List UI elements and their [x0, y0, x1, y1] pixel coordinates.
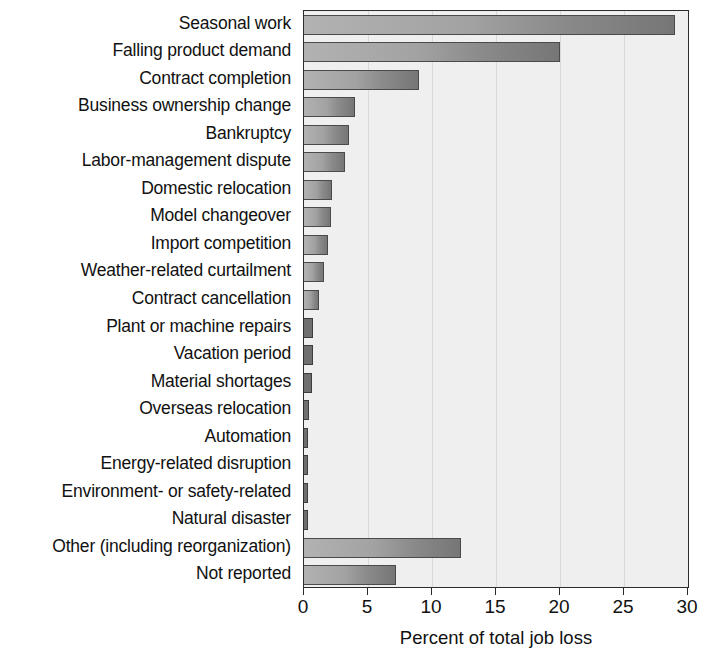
bar-fill [304, 373, 312, 393]
x-axis-tick [687, 588, 688, 595]
category-label: Domestic relocation [0, 180, 291, 198]
x-axis-tick [431, 588, 432, 595]
x-axis-tick [623, 588, 624, 595]
bar-fill [304, 510, 308, 530]
bar-fill [304, 152, 345, 172]
x-axis-tick-label: 5 [362, 597, 373, 616]
bar[interactable] [304, 483, 308, 503]
bar[interactable] [304, 125, 349, 145]
category-label: Not reported [0, 565, 291, 583]
x-axis-tick-label: 0 [298, 597, 309, 616]
category-label: Natural disaster [0, 510, 291, 528]
bar-fill [304, 42, 560, 62]
bar-fill [304, 235, 328, 255]
gridline [432, 11, 433, 587]
x-axis-tick [559, 588, 560, 595]
bar[interactable] [304, 345, 313, 365]
category-label: Overseas relocation [0, 400, 291, 418]
category-label: Contract completion [0, 70, 291, 88]
category-label: Energy-related disruption [0, 455, 291, 473]
bar-fill [304, 483, 308, 503]
x-axis: 051015202530 [303, 588, 689, 589]
bar[interactable] [304, 455, 308, 475]
bar-fill [304, 290, 319, 310]
category-label: Seasonal work [0, 15, 291, 33]
bar-fill [304, 15, 675, 35]
category-label: Environment- or safety-related [0, 483, 291, 501]
category-label: Import competition [0, 235, 291, 253]
bar-fill [304, 262, 324, 282]
x-axis-tick [303, 588, 304, 595]
gridline [368, 11, 369, 587]
bar-fill [304, 455, 308, 475]
bar-fill [304, 180, 332, 200]
bar-chart: Seasonal workFalling product demandContr… [0, 0, 706, 665]
bar-fill [304, 400, 309, 420]
bar[interactable] [304, 235, 328, 255]
x-axis-tick-label: 30 [676, 597, 697, 616]
category-label: Contract cancellation [0, 290, 291, 308]
bar-fill [304, 345, 313, 365]
bar[interactable] [304, 538, 461, 558]
category-label: Falling product demand [0, 42, 291, 60]
category-label: Business ownership change [0, 97, 291, 115]
category-label: Bankruptcy [0, 125, 291, 143]
bar[interactable] [304, 565, 396, 585]
x-axis-tick-label: 10 [420, 597, 441, 616]
x-axis-tick [495, 588, 496, 595]
category-label: Labor-management dispute [0, 152, 291, 170]
category-label: Vacation period [0, 345, 291, 363]
category-label: Material shortages [0, 373, 291, 391]
plot-area [303, 10, 689, 588]
x-axis-tick-label: 15 [484, 597, 505, 616]
bar-fill [304, 565, 396, 585]
bar[interactable] [304, 510, 308, 530]
bar[interactable] [304, 15, 675, 35]
x-axis-tick [367, 588, 368, 595]
bar-fill [304, 538, 461, 558]
bar-fill [304, 318, 313, 338]
gridline [496, 11, 497, 587]
category-label: Model changeover [0, 207, 291, 225]
bar[interactable] [304, 152, 345, 172]
bar-fill [304, 428, 308, 448]
category-axis-labels: Seasonal workFalling product demandContr… [0, 10, 297, 588]
x-axis-tick-label: 25 [612, 597, 633, 616]
bar[interactable] [304, 180, 332, 200]
category-label: Other (including reorganization) [0, 538, 291, 556]
bar[interactable] [304, 42, 560, 62]
bar-fill [304, 97, 355, 117]
bar-fill [304, 125, 349, 145]
bar[interactable] [304, 318, 313, 338]
bar[interactable] [304, 70, 419, 90]
bar-fill [304, 70, 419, 90]
bar[interactable] [304, 207, 331, 227]
x-axis-title: Percent of total job loss [303, 628, 689, 648]
bar[interactable] [304, 400, 309, 420]
bar[interactable] [304, 97, 355, 117]
bar[interactable] [304, 262, 324, 282]
bar[interactable] [304, 428, 308, 448]
gridline [624, 11, 625, 587]
bar[interactable] [304, 290, 319, 310]
bar[interactable] [304, 373, 312, 393]
category-label: Weather-related curtailment [0, 262, 291, 280]
bar-fill [304, 207, 331, 227]
x-axis-tick-label: 20 [548, 597, 569, 616]
category-label: Automation [0, 428, 291, 446]
category-label: Plant or machine repairs [0, 318, 291, 336]
gridline [560, 11, 561, 587]
